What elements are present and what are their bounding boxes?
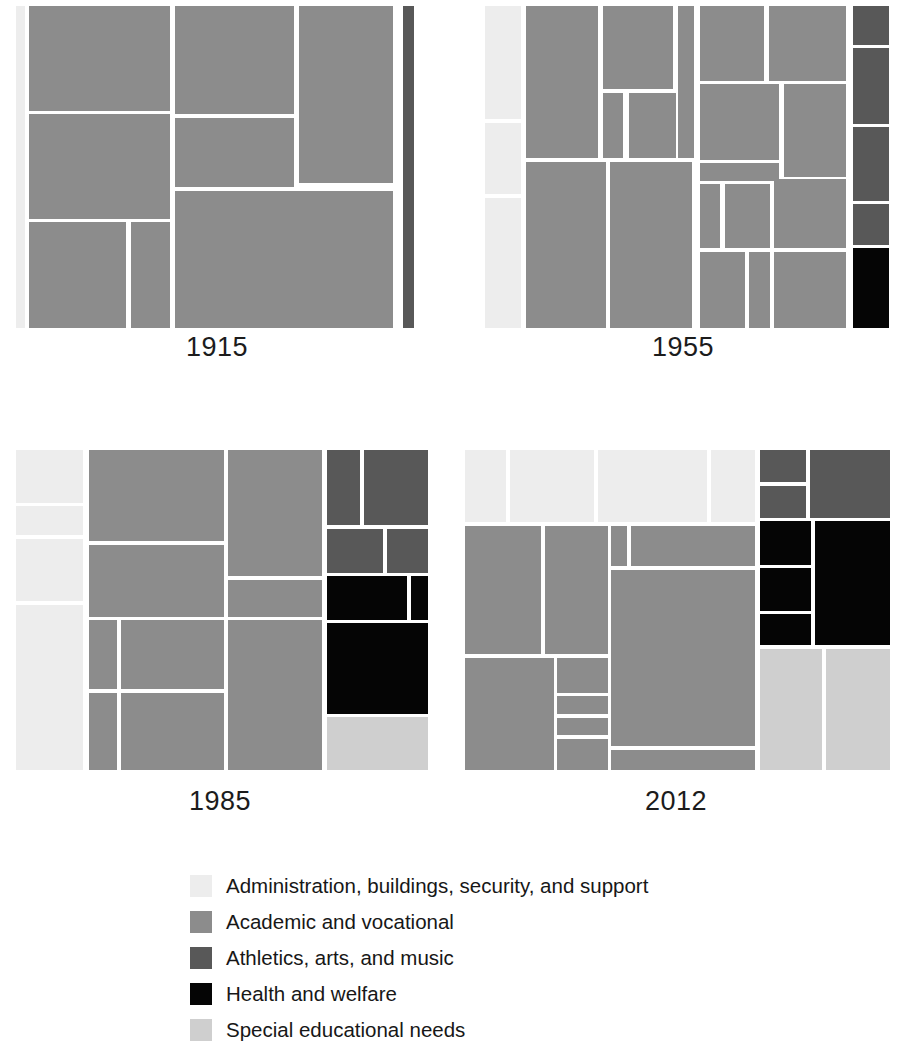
treemap-tile-academic: [769, 6, 846, 81]
treemap-tile-academic: [784, 84, 846, 177]
treemap-tile-academic: [175, 118, 295, 187]
treemap-tiles-1985: [12, 450, 428, 770]
treemap-tile-academic: [29, 6, 170, 111]
treemap-tile-admin: [485, 123, 521, 195]
treemap-tile-academic: [603, 6, 673, 89]
treemap-tile-academic: [774, 252, 845, 328]
treemap-tile-admin: [16, 450, 83, 503]
treemap-tile-health: [760, 614, 811, 645]
treemap-tiles-1955: [477, 6, 889, 328]
legend-item: Special educational needs: [190, 1012, 750, 1048]
treemap-tile-special: [760, 649, 822, 770]
treemap-tile-academic: [465, 526, 541, 655]
treemap-tile-academic: [89, 450, 224, 541]
treemap-tile-academic: [603, 93, 624, 158]
treemap-tile-athletics: [327, 450, 360, 525]
treemap-tile-health: [411, 576, 428, 619]
treemap-tile-academic: [700, 252, 745, 328]
treemap-tile-academic: [631, 526, 755, 567]
treemap-tile-health: [760, 568, 811, 611]
treemap-tile-athletics: [760, 486, 806, 518]
treemap-tile-athletics: [853, 6, 889, 45]
treemap-tile-academic: [228, 580, 322, 617]
treemap-tile-academic: [465, 658, 553, 770]
legend-swatch-icon: [190, 983, 212, 1005]
treemap-tile-academic: [228, 450, 322, 576]
treemap-tile-academic: [121, 693, 223, 770]
treemap-tile-academic: [749, 252, 770, 328]
treemap-tile-athletics: [810, 450, 890, 518]
treemap-tile-admin: [16, 506, 83, 535]
legend-item: Health and welfare: [190, 976, 750, 1012]
treemap-tile-academic: [545, 526, 608, 655]
treemap-tiles-2012: [462, 450, 890, 770]
treemap-tile-special: [826, 649, 890, 770]
treemap-tile-academic: [89, 545, 224, 617]
treemap-panel-1985: [12, 450, 428, 770]
treemap-tile-academic: [557, 696, 608, 714]
treemap-tile-academic: [611, 570, 754, 746]
treemap-tile-academic: [557, 718, 608, 736]
treemap-tile-academic: [700, 6, 764, 81]
legend-label: Administration, buildings, security, and…: [226, 876, 648, 897]
year-label-1955: 1955: [477, 332, 889, 363]
treemap-tile-admin: [16, 605, 83, 770]
treemap-panel-2012: [462, 450, 890, 770]
treemap-tile-admin: [16, 539, 83, 601]
treemap-tile-athletics: [387, 529, 428, 573]
treemap-tile-health: [327, 576, 407, 619]
treemap-tile-admin: [16, 6, 25, 328]
treemap-tile-academic: [175, 191, 393, 328]
treemap-tile-health: [327, 623, 428, 714]
legend-item: Academic and vocational: [190, 904, 750, 940]
treemap-tile-athletics: [853, 127, 889, 201]
treemap-tile-health: [853, 248, 889, 328]
treemap-tile-admin: [510, 450, 594, 522]
treemap-tile-academic: [175, 6, 295, 114]
legend-swatch-icon: [190, 875, 212, 897]
legend-label: Academic and vocational: [226, 912, 454, 933]
legend-swatch-icon: [190, 947, 212, 969]
treemap-tile-academic: [678, 6, 694, 158]
legend-swatch-icon: [190, 911, 212, 933]
treemap-tile-health: [760, 521, 811, 564]
year-label-1985: 1985: [12, 786, 428, 817]
legend-item: Administration, buildings, security, and…: [190, 868, 750, 904]
treemap-tile-academic: [121, 620, 223, 689]
treemap-tile-academic: [774, 179, 845, 248]
treemap-tile-academic: [526, 6, 598, 158]
legend-swatch-icon: [190, 1019, 212, 1041]
treemap-tile-athletics: [403, 6, 414, 328]
legend-label: Health and welfare: [226, 984, 397, 1005]
year-label-2012: 2012: [462, 786, 890, 817]
treemap-tile-academic: [700, 163, 779, 181]
treemap-tile-academic: [29, 114, 170, 219]
treemap-tiles-1915: [8, 6, 426, 328]
legend: Administration, buildings, security, and…: [190, 868, 750, 1048]
treemap-tile-academic: [89, 620, 118, 689]
treemap-tile-academic: [89, 693, 118, 770]
treemap-figure: 1915 1955 1985 2012 Administration, buil…: [0, 0, 897, 1048]
treemap-tile-health: [815, 521, 890, 645]
treemap-tile-academic: [557, 658, 608, 693]
treemap-tile-athletics: [853, 48, 889, 123]
treemap-tile-academic: [526, 162, 606, 328]
year-label-1915: 1915: [8, 332, 426, 363]
treemap-tile-academic: [557, 739, 608, 770]
treemap-tile-academic: [29, 222, 126, 328]
treemap-tile-academic: [611, 750, 754, 770]
legend-label: Special educational needs: [226, 1020, 465, 1041]
treemap-tile-academic: [610, 162, 692, 328]
treemap-panel-1915: [8, 6, 426, 328]
treemap-tile-athletics: [364, 450, 428, 525]
treemap-panel-1955: [477, 6, 889, 328]
treemap-tile-academic: [629, 93, 676, 158]
treemap-tile-admin: [598, 450, 707, 522]
treemap-tile-special: [327, 717, 428, 770]
legend-label: Athletics, arts, and music: [226, 948, 454, 969]
treemap-tile-admin: [711, 450, 755, 522]
treemap-tile-academic: [700, 84, 779, 160]
treemap-tile-admin: [465, 450, 506, 522]
treemap-tile-athletics: [327, 529, 383, 573]
legend-item: Athletics, arts, and music: [190, 940, 750, 976]
